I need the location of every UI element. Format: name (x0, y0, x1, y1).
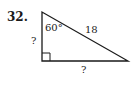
triangle (42, 12, 128, 61)
hypotenuse-label: 18 (85, 24, 98, 35)
vertical-leg-label: ? (31, 35, 36, 46)
angle-label: 60° (45, 22, 63, 33)
right-angle-marker (42, 53, 50, 61)
horizontal-leg-label: ? (81, 64, 86, 75)
right-triangle-figure (0, 0, 137, 93)
